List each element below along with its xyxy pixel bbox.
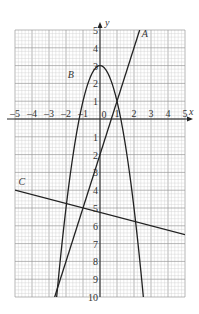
series-c-label: C — [18, 176, 25, 187]
series-a-label: A — [141, 28, 149, 39]
x-axis-label: x — [188, 106, 194, 117]
y-axis-label: y — [104, 17, 110, 28]
x-tick-label: 4 — [166, 108, 171, 119]
y-tick-label: 4 — [93, 185, 98, 196]
x-tick-label: 0 — [102, 109, 107, 120]
x-tick-label: –5 — [9, 108, 20, 119]
y-tick-label: 1 — [93, 96, 98, 107]
y-tick-label: 10 — [88, 292, 98, 303]
y-tick-label: 9 — [93, 274, 98, 285]
y-tick-label: 2 — [93, 150, 98, 161]
x-tick-label: 3 — [149, 108, 154, 119]
x-tick-label: –1 — [77, 108, 88, 119]
x-tick-label: –3 — [43, 108, 54, 119]
x-tick-label: 5 — [183, 108, 188, 119]
graph: xy–5–4–3–2–10123455432112345678910ABC — [0, 0, 199, 314]
x-tick-label: 2 — [132, 108, 137, 119]
y-tick-label: 8 — [93, 256, 98, 267]
x-tick-label: –2 — [60, 108, 71, 119]
y-tick-label: 5 — [93, 25, 98, 36]
y-tick-label: 6 — [93, 221, 98, 232]
y-tick-label: 1 — [93, 132, 98, 143]
y-tick-label: 7 — [93, 239, 98, 250]
y-axis-arrow — [98, 22, 103, 28]
x-axis-arrow — [187, 117, 193, 122]
y-tick-label: 4 — [93, 43, 98, 54]
series-b-label: B — [68, 69, 74, 80]
y-tick-label: 2 — [93, 78, 98, 89]
x-tick-label: –4 — [26, 108, 37, 119]
